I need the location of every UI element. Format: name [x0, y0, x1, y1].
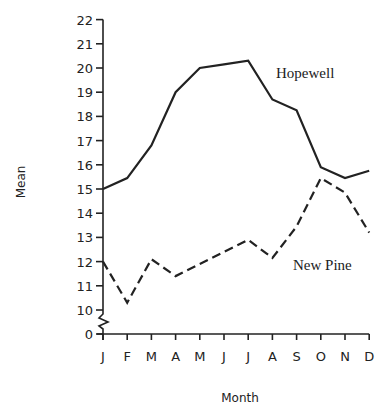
series-label: New Pine: [293, 257, 352, 273]
x-tick-label: N: [340, 349, 350, 364]
y-tick-label: 20: [76, 61, 93, 76]
y-tick-label: 11: [76, 279, 93, 294]
y-tick-label: 13: [76, 230, 93, 245]
y-tick-label: 16: [76, 158, 93, 173]
y-tick-label: 21: [76, 37, 93, 52]
y-tick-label: 15: [76, 182, 93, 197]
x-tick-label: J: [221, 349, 226, 364]
x-tick-label: M: [194, 349, 205, 364]
x-tick-label: O: [316, 349, 326, 364]
y-tick-label: 17: [76, 134, 93, 149]
y-axis: 010111213141516171819202122: [76, 13, 108, 342]
line-chart: 010111213141516171819202122 JFMAMJJASOND…: [0, 0, 388, 413]
x-tick-label: D: [364, 349, 374, 364]
x-tick-label: M: [146, 349, 157, 364]
x-axis: JFMAMJJASOND: [97, 334, 374, 364]
series-label: Hopewell: [276, 65, 334, 81]
y-tick-label: 14: [76, 206, 93, 221]
y-tick-label: 18: [76, 109, 93, 124]
y-axis-title: Mean: [14, 166, 28, 199]
series-line-new-pine: [103, 178, 369, 303]
x-axis-title: Month: [221, 391, 259, 405]
y-tick-label: 19: [76, 85, 93, 100]
x-tick-label: F: [123, 349, 130, 364]
x-tick-label: J: [100, 349, 105, 364]
y-tick-label: 22: [76, 13, 93, 28]
x-tick-label: A: [171, 349, 180, 364]
y-tick-label: 12: [76, 255, 93, 270]
x-tick-label: A: [268, 349, 277, 364]
x-tick-label: J: [245, 349, 250, 364]
y-tick-label: 0: [85, 327, 93, 342]
annotations: HopewellNew Pine: [276, 65, 352, 273]
y-tick-label: 10: [76, 303, 93, 318]
x-tick-label: S: [292, 349, 300, 364]
